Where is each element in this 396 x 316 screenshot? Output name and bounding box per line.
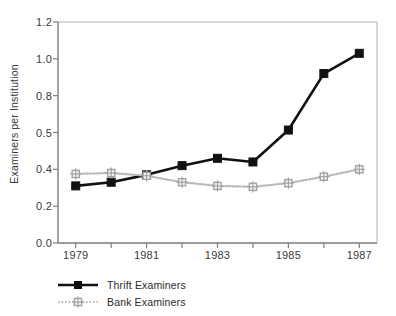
series-line-1 [76,53,360,186]
plot-area [0,0,396,316]
series-marker-1 [72,182,80,190]
chart-legend: Thrift ExaminersBank Examiners [56,276,186,310]
legend-swatch-1 [56,278,100,292]
plot-frame-top-right [58,22,377,243]
legend-label: Thrift Examiners [107,278,186,292]
series-marker-1 [214,154,222,162]
legend-item[interactable]: Thrift Examiners [56,276,186,293]
series-marker-1 [355,49,363,57]
series-marker-1 [249,158,257,166]
series-marker-1 [107,178,115,186]
legend-label: Bank Examiners [107,295,186,309]
series-marker-1 [284,126,292,134]
series-marker-1 [320,70,328,78]
chart-figure: Examiners per Institution 0.00.20.40.50.… [0,0,396,316]
series-marker-1 [178,162,186,170]
legend-marker [74,281,82,289]
legend-item[interactable]: Bank Examiners [56,293,186,310]
legend-swatch-2 [56,295,100,309]
